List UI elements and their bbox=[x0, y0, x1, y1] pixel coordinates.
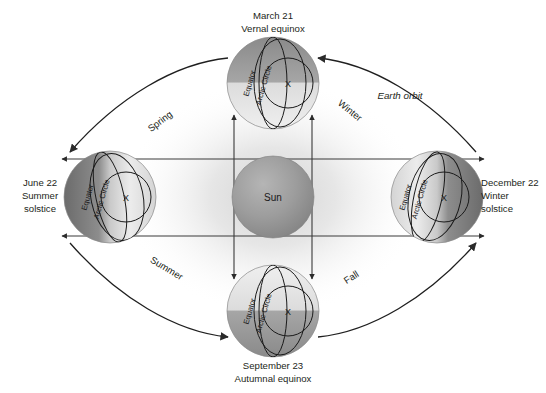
site-marker-june: X bbox=[123, 193, 129, 203]
earth-orbit-label: Earth orbit bbox=[377, 90, 423, 101]
event-label-june-2: solstice bbox=[24, 203, 56, 214]
date-label-june: June 22 bbox=[23, 177, 57, 188]
site-marker-march: X bbox=[285, 79, 291, 89]
event-label-dec-1: Winter bbox=[481, 190, 510, 201]
event-label-sept: Autumnal equinox bbox=[235, 373, 312, 384]
earth-september-equinox: X Equator Arctic Circle September 23 Aut… bbox=[227, 265, 319, 384]
sun-label: Sun bbox=[264, 192, 282, 203]
date-label-march: March 21 bbox=[253, 10, 293, 21]
site-marker-dec: X bbox=[441, 193, 447, 203]
date-label-dec: December 22 bbox=[481, 177, 539, 188]
date-label-sept: September 23 bbox=[243, 360, 303, 371]
earth-june-solstice: X Equator Arctic Circle June 22 Summer s… bbox=[22, 149, 156, 246]
sun: Sun bbox=[232, 156, 314, 238]
site-marker-sept: X bbox=[285, 307, 291, 317]
event-label-march: Vernal equinox bbox=[241, 23, 305, 34]
event-label-june-1: Summer bbox=[22, 190, 59, 201]
earth-seasons-diagram: Sun X Equator Arctic Circle March 21 Ver… bbox=[0, 0, 546, 393]
earth-march-equinox: X Equator Arctic Circle March 21 Vernal … bbox=[227, 10, 319, 129]
earth-december-solstice: X Equator Arctic Circle December 22 Wint… bbox=[391, 149, 539, 246]
event-label-dec-2: solstice bbox=[481, 203, 513, 214]
